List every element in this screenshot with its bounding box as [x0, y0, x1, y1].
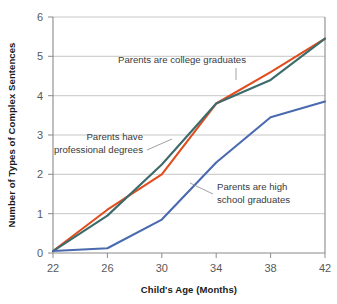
annotation-college-graduates-line-0: Parents are college graduates [118, 54, 246, 65]
x-tick-label-22: 22 [47, 262, 59, 274]
y-tick-label-4: 4 [37, 90, 43, 102]
annotation-professional-degrees-line-1: professional degrees [54, 144, 143, 155]
leader-line-professional-degrees [147, 139, 172, 150]
chart-figure: 6 5 4 3 2 1 0 22 26 30 34 38 42 Pare [0, 0, 337, 304]
line-chart: 6 5 4 3 2 1 0 22 26 30 34 38 42 Pare [0, 0, 337, 304]
annotation-college-graduates: Parents are college graduates [118, 54, 246, 65]
y-tick-label-5: 5 [37, 50, 43, 62]
x-tick-label-42: 42 [319, 262, 331, 274]
y-tick-marks [48, 17, 53, 253]
y-tick-label-0: 0 [37, 247, 43, 259]
x-tick-label-26: 26 [101, 262, 113, 274]
y-tick-label-1: 1 [37, 208, 43, 220]
x-tick-label-38: 38 [264, 262, 276, 274]
series-line-high-school-graduates [53, 102, 325, 251]
annotation-high-school-graduates: Parents are high school graduates [217, 181, 290, 205]
x-axis-title: Child's Age (Months) [141, 284, 237, 295]
x-tick-label-30: 30 [156, 262, 168, 274]
y-tick-label-3: 3 [37, 129, 43, 141]
y-tick-labels: 6 5 4 3 2 1 0 [37, 11, 43, 259]
leader-line-high-school-graduates [190, 183, 213, 194]
y-axis-title: Number of Types of Complex Sentences [6, 42, 17, 227]
x-tick-label-34: 34 [210, 262, 222, 274]
annotation-high-school-graduates-line-1: school graduates [217, 194, 290, 205]
y-tick-label-6: 6 [37, 11, 43, 23]
annotation-high-school-graduates-line-0: Parents are high [217, 181, 287, 192]
x-tick-labels: 22 26 30 34 38 42 [47, 262, 331, 274]
annotation-professional-degrees-line-0: Parents have [86, 131, 143, 142]
x-tick-marks [53, 253, 325, 258]
y-tick-label-2: 2 [37, 168, 43, 180]
